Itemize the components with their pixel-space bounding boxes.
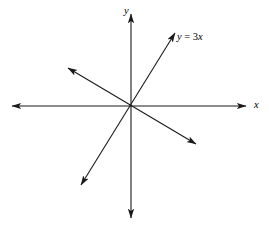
line-y-equals-3x [81, 33, 175, 185]
equation-variable-x: x [198, 31, 203, 42]
equation-operator: = 3 [182, 31, 198, 42]
line-equation-label: y = 3x [177, 32, 203, 43]
graph-canvas [0, 0, 269, 226]
y-axis-label: y [124, 6, 129, 17]
x-axis-label: x [254, 100, 259, 111]
coordinate-plane-figure: y x y = 3x [0, 0, 269, 226]
